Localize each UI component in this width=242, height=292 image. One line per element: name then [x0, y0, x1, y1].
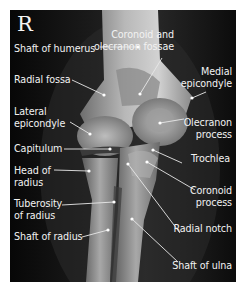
label-line: epicondyle — [14, 118, 65, 130]
label-medial-epicondyle: Medialepicondyle — [181, 66, 232, 89]
label-trochlea: Trochlea — [191, 153, 230, 165]
pointer-lateral-epicondyle — [70, 122, 90, 134]
label-shaft-of-radius: Shaft of radius — [14, 231, 83, 243]
label-radial-fossa: Radial fossa — [14, 74, 71, 86]
label-shaft-of-ulna: Shaft of ulna — [172, 260, 232, 272]
pointer-dot-shaft-of-ulna — [130, 217, 133, 220]
pointer-dot-olecranon-process — [158, 121, 161, 124]
pointer-coronoid-process — [147, 162, 195, 190]
label-line: Shaft of radius — [14, 231, 83, 243]
pointer-head-of-radius — [54, 170, 89, 171]
label-line: epicondyle — [181, 78, 232, 90]
pointer-dot-radial-notch — [126, 162, 129, 165]
label-line: Olecranon — [184, 117, 232, 129]
pointer-radial-fossa — [72, 80, 104, 95]
side-marker-right: R — [17, 11, 33, 37]
label-line: Coronoid — [190, 185, 232, 197]
xray-panel: R Shaft of humerusRadial fossaLateralepi… — [10, 10, 236, 282]
label-line: Shaft of humerus — [14, 43, 95, 55]
pointer-dot-medial-epicondyle — [190, 96, 193, 99]
pointer-coronoid-olecranon-fossae — [140, 58, 162, 94]
pointer-shaft-of-radius — [82, 230, 108, 237]
label-line: of radius — [14, 210, 62, 222]
label-line: Tuberosity — [14, 198, 62, 210]
label-coronoid-olecranon-fossae: Coronoid andolecranon fossae — [94, 29, 174, 52]
pointer-dot-capitulum — [108, 147, 111, 150]
pointer-trochlea — [153, 150, 182, 163]
label-shaft-of-humerus: Shaft of humerus — [14, 43, 95, 55]
label-line: Radial notch — [173, 223, 232, 235]
label-line: Radial fossa — [14, 74, 71, 86]
label-capitulum: Capitulum — [14, 143, 62, 155]
label-line: process — [190, 197, 232, 209]
label-line: Shaft of ulna — [172, 260, 232, 272]
label-line: process — [184, 129, 232, 141]
label-line: Capitulum — [14, 143, 62, 155]
pointer-dot-radial-fossa — [102, 93, 105, 96]
label-coronoid-process: Coronoidprocess — [190, 185, 232, 208]
label-line: olecranon fossae — [94, 41, 174, 53]
pointer-dot-lateral-epicondyle — [88, 132, 91, 135]
pointer-olecranon-process — [160, 119, 184, 123]
label-olecranon-process: Olecranonprocess — [184, 117, 232, 140]
label-line: radius — [14, 177, 51, 189]
label-lateral-epicondyle: Lateralepicondyle — [14, 106, 65, 129]
label-line: Head of — [14, 165, 51, 177]
pointer-dot-trochlea — [151, 148, 154, 151]
label-line: Lateral — [14, 106, 65, 118]
label-line: Medial — [181, 66, 232, 78]
pointer-dot-coronoid-olecranon-fossae — [138, 92, 141, 95]
pointer-dot-tuberosity-of-radius — [112, 200, 115, 203]
pointer-shaft-of-ulna — [132, 219, 178, 262]
pointer-dot-shaft-of-radius — [106, 228, 109, 231]
label-line: Coronoid and — [94, 29, 174, 41]
pointer-dot-head-of-radius — [87, 169, 90, 172]
label-radial-notch: Radial notch — [173, 223, 232, 235]
pointer-tuberosity-of-radius — [62, 202, 114, 205]
pointer-medial-epicondyle — [192, 92, 206, 98]
pointer-dot-coronoid-process — [145, 160, 148, 163]
label-line: Trochlea — [191, 153, 230, 165]
label-head-of-radius: Head ofradius — [14, 165, 51, 188]
label-tuberosity-of-radius: Tuberosityof radius — [14, 198, 62, 221]
